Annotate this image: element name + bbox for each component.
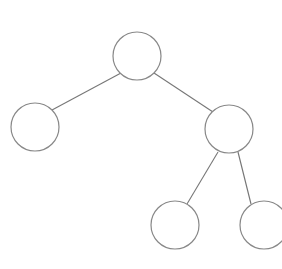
edge-3-5 xyxy=(238,152,251,204)
tree-diagram xyxy=(0,0,282,269)
edge-1-3 xyxy=(154,73,213,112)
node-5-circle xyxy=(240,201,282,249)
node-3-circle xyxy=(205,105,253,153)
node-2-circle xyxy=(11,103,59,151)
node-4-circle xyxy=(151,201,199,249)
node-1-circle xyxy=(113,32,161,80)
edge-3-4 xyxy=(187,152,218,204)
edge-1-2 xyxy=(52,73,121,110)
